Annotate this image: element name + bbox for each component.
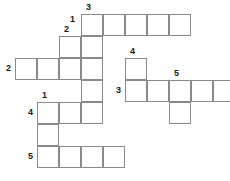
clue-number: 4 bbox=[26, 108, 35, 117]
grid-cell[interactable] bbox=[81, 14, 103, 36]
grid-cell[interactable] bbox=[169, 14, 191, 36]
grid-cell[interactable] bbox=[125, 14, 147, 36]
grid-cell[interactable] bbox=[169, 80, 191, 102]
grid-cell[interactable] bbox=[147, 80, 169, 102]
clue-number: 2 bbox=[4, 64, 13, 73]
clue-number: 1 bbox=[68, 15, 77, 24]
grid-cell[interactable] bbox=[81, 80, 103, 102]
grid-cell[interactable] bbox=[15, 58, 37, 80]
grid-cell[interactable] bbox=[59, 58, 81, 80]
grid-cell[interactable] bbox=[191, 80, 213, 102]
grid-cell[interactable] bbox=[37, 146, 59, 168]
grid-cell[interactable] bbox=[81, 102, 103, 124]
grid-cell[interactable] bbox=[125, 80, 147, 102]
clue-number: 4 bbox=[128, 47, 137, 56]
grid-cell[interactable] bbox=[81, 146, 103, 168]
grid-cell[interactable] bbox=[59, 146, 81, 168]
grid-cell[interactable] bbox=[103, 146, 125, 168]
grid-cell[interactable] bbox=[59, 102, 81, 124]
clue-number: 3 bbox=[114, 86, 123, 95]
crossword-grid[interactable]: 3122435145 bbox=[0, 0, 230, 181]
clue-number: 5 bbox=[26, 152, 35, 161]
grid-cell[interactable] bbox=[37, 102, 59, 124]
grid-cell[interactable] bbox=[37, 58, 59, 80]
grid-cell[interactable] bbox=[59, 36, 81, 58]
clue-number: 2 bbox=[62, 25, 71, 34]
grid-cell[interactable] bbox=[125, 58, 147, 80]
grid-cell[interactable] bbox=[37, 124, 59, 146]
grid-cell[interactable] bbox=[81, 36, 103, 58]
clue-number: 5 bbox=[172, 69, 181, 78]
grid-cell[interactable] bbox=[213, 80, 230, 102]
clue-number: 3 bbox=[84, 3, 93, 12]
grid-cell[interactable] bbox=[81, 58, 103, 80]
grid-cell[interactable] bbox=[147, 14, 169, 36]
clue-number: 1 bbox=[40, 91, 49, 100]
grid-cell[interactable] bbox=[103, 14, 125, 36]
grid-cell[interactable] bbox=[169, 102, 191, 124]
